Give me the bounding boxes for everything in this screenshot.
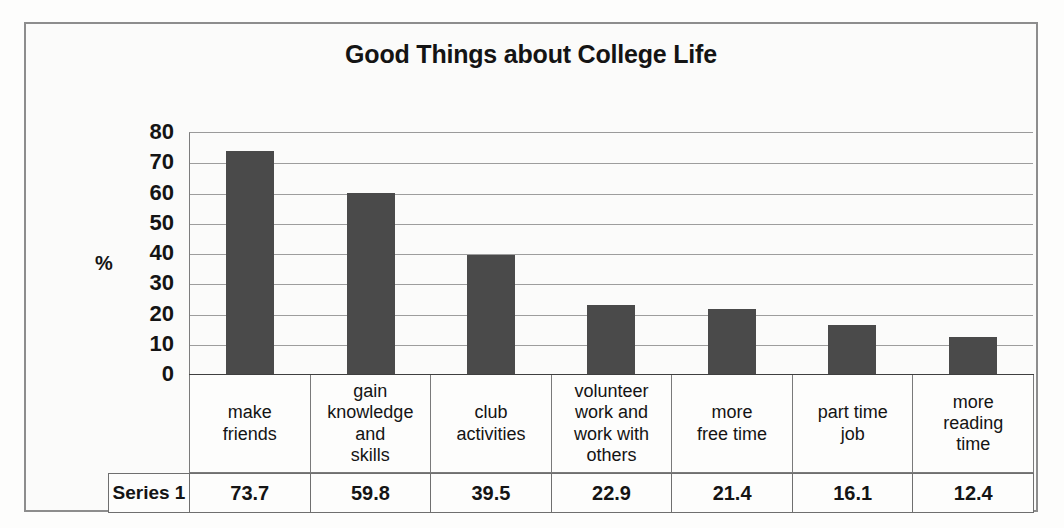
data-table-cell: 73.7 [190,474,310,512]
chart-frame: Good Things about College Life % 8070605… [24,22,1038,512]
series-name-cell: Series 1 [109,474,190,512]
bar-slot [431,133,551,374]
y-tick-label: 10 [114,333,174,355]
bar[interactable] [226,151,274,374]
bar-slot [913,133,1033,374]
bar-slot [190,133,310,374]
y-axis-tick-labels: 80706050403020100 [114,110,182,394]
category-label: morereadingtime [912,375,1033,472]
bar-slot [792,133,912,374]
bar[interactable] [828,325,876,374]
category-label: volunteerwork andwork withothers [551,375,672,472]
y-tick-label: 50 [114,212,174,234]
data-table-cell: 59.8 [310,474,431,512]
chart-title: Good Things about College Life [26,40,1036,69]
scanned-page: Good Things about College Life % 8070605… [0,0,1064,528]
plot-area [189,132,1033,374]
data-table-cell: 39.5 [430,474,551,512]
bar[interactable] [708,309,756,374]
category-label: morefree time [671,375,792,472]
data-table-values: 73.759.839.522.921.416.112.4 [190,474,1033,512]
y-tick-label: 60 [114,182,174,204]
data-table-cell: 22.9 [551,474,672,512]
y-tick-label: 80 [114,121,174,143]
data-table: Series 1 73.759.839.522.921.416.112.4 [108,473,1034,513]
bar-slot [672,133,792,374]
bar-slot [551,133,671,374]
y-tick-label: 40 [114,242,174,264]
bar[interactable] [587,305,635,374]
bar-series [190,133,1033,374]
category-label: makefriends [190,375,310,472]
y-tick-label: 70 [114,151,174,173]
bar[interactable] [347,193,395,374]
category-label: clubactivities [430,375,551,472]
data-table-cell: 12.4 [912,474,1033,512]
bar-slot [310,133,430,374]
bar[interactable] [467,255,515,374]
data-table-cell: 16.1 [792,474,913,512]
category-label: part timejob [792,375,913,472]
y-tick-label: 20 [114,303,174,325]
y-tick-label: 30 [114,272,174,294]
category-label-row: makefriendsgainknowledgeandskillsclubact… [189,375,1034,473]
bar[interactable] [949,337,997,375]
y-tick-label: 0 [114,363,174,385]
category-label: gainknowledgeandskills [310,375,431,472]
data-table-cell: 21.4 [671,474,792,512]
